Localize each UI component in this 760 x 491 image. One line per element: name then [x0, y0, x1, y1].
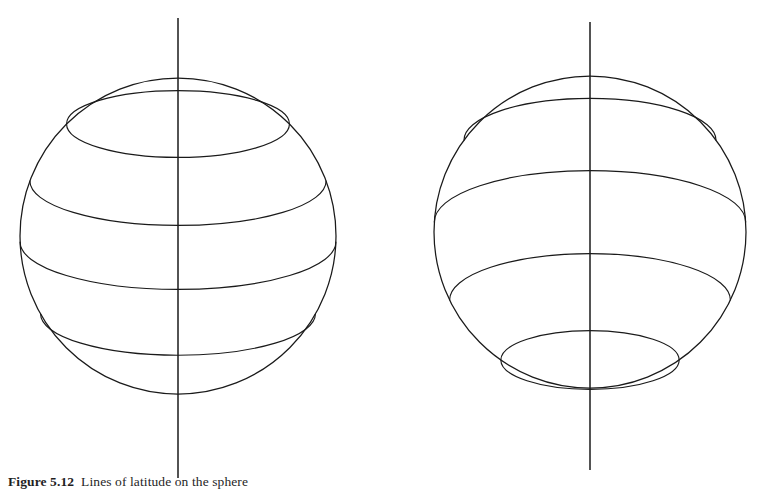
figure-caption: Figure 5.12Lines of latitude on the sphe…: [0, 474, 760, 491]
figure-illustration: [0, 0, 760, 491]
caption-label: Figure 5.12: [8, 474, 74, 489]
figure-background: [0, 0, 760, 491]
caption-body: Lines of latitude on the sphere: [81, 474, 248, 489]
caption-line: Figure 5.12Lines of latitude on the sphe…: [8, 474, 248, 490]
